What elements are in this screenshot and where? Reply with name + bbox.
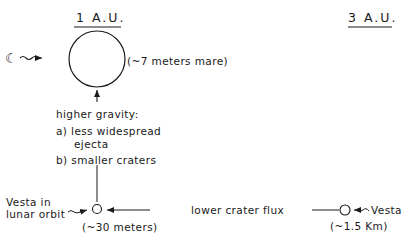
vesta-lunar-label-line2: lunar orbit [6,209,65,220]
vesta-3au-label: Vesta [371,205,402,216]
vesta-lunar-label-line1: Vesta in [6,197,51,208]
gravity-title: higher gravity: [56,109,139,120]
crater-flux-label: lower crater flux [191,205,284,216]
wavy-arrow-icon [20,57,42,60]
crescent-moon-icon: ☾ [5,51,18,65]
vesta-lunar-circle [93,205,102,214]
gravity-item-a-cont: ejecta [74,139,109,150]
gravity-item-a: a) less widespread [56,126,161,137]
heading-3au: 3 A.U. [348,12,397,25]
vesta-3au-size-label: (~1.5 Km) [330,221,388,232]
moon-large-circle [69,31,125,87]
vesta-lunar-size-label: (~30 meters) [82,222,158,233]
gravity-item-b: b) smaller craters [56,155,156,166]
heading-1au: 1 A.U. [76,12,125,25]
moon-mare-size-label: (~7 meters mare) [127,56,228,67]
vesta-3au-circle [340,205,350,215]
vesta-3au-wavy-arrow-icon [354,209,369,211]
vesta-lunar-wavy-arrow-icon [68,210,87,213]
